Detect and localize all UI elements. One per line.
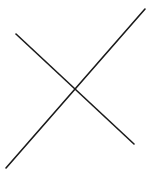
figure-canvas <box>0 0 150 178</box>
cross-mark-icon <box>0 0 150 178</box>
descending-stroke <box>16 34 134 144</box>
